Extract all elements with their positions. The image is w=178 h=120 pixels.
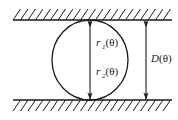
bottom-wall — [13, 100, 172, 111]
top-wall — [13, 9, 172, 20]
label-r1-base: r — [96, 36, 101, 48]
label-r1: r 1 (θ) — [96, 36, 118, 51]
label-r2: r 2 (θ) — [96, 65, 118, 80]
label-D: D (θ) — [150, 52, 172, 65]
bottom-wall-hatching — [13, 100, 171, 111]
radii-dimension-line — [87, 21, 92, 100]
label-r2-base: r — [96, 65, 101, 77]
label-D-base: D — [150, 52, 159, 64]
gap-dimension-line — [143, 21, 148, 100]
figure-container: r 1 (θ) r 2 (θ) D (θ) — [0, 0, 178, 120]
label-r2-argument: (θ) — [106, 65, 119, 78]
label-r1-argument: (θ) — [106, 36, 119, 49]
top-wall-hatching — [13, 9, 171, 20]
label-D-argument: (θ) — [159, 52, 172, 65]
geometry-diagram: r 1 (θ) r 2 (θ) D (θ) — [0, 0, 178, 120]
